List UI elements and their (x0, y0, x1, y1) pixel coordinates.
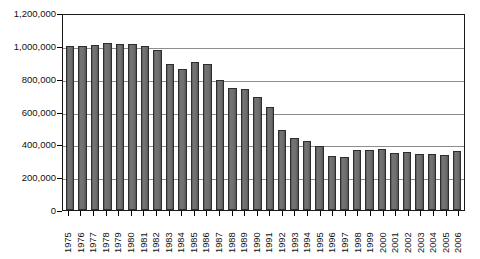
x-axis-tick-label: 1977 (89, 232, 98, 253)
x-axis-tick-label: 1980 (127, 232, 136, 253)
bar-slot (401, 15, 413, 210)
x-axis-tick-label: 1990 (253, 232, 262, 253)
x-axis-tick-label: 1976 (76, 232, 85, 253)
x-axis-tick (269, 211, 270, 216)
bar (228, 88, 236, 210)
x-axis-tick (93, 211, 94, 216)
x-axis-slot: 2000 (377, 211, 390, 259)
y-axis-tick-label: 400,000 (22, 141, 56, 151)
x-axis-tick-label: 1984 (177, 232, 186, 253)
x-axis-tick (232, 211, 233, 216)
x-axis-slot: 1993 (289, 211, 302, 259)
bar-slot (164, 15, 176, 210)
bar (428, 154, 436, 210)
bar-slot (239, 15, 251, 210)
bar (415, 154, 423, 210)
x-axis-tick-label: 1999 (366, 232, 375, 253)
x-axis-slot: 1978 (100, 211, 113, 259)
x-axis-tick (131, 211, 132, 216)
bar (153, 50, 161, 210)
x-axis-slot: 1997 (339, 211, 352, 259)
x-axis-tick (68, 211, 69, 216)
bar-slot (351, 15, 363, 210)
bar-slot (438, 15, 450, 210)
x-axis-tick-label: 1983 (164, 232, 173, 253)
x-axis-tick (345, 211, 346, 216)
x-axis-tick-label: 1996 (328, 232, 337, 253)
bar (390, 153, 398, 210)
bar (353, 150, 361, 210)
bar (178, 69, 186, 210)
x-axis-slot: 2006 (452, 211, 465, 259)
y-axis-tick-label: 1,000,000 (14, 42, 56, 52)
bar-slot (338, 15, 350, 210)
bar-slot (426, 15, 438, 210)
x-axis-slot: 1975 (62, 211, 75, 259)
bar (253, 97, 261, 210)
x-axis-tick-label: 1979 (114, 232, 123, 253)
bar (141, 46, 149, 210)
x-axis-slot: 1980 (125, 211, 138, 259)
x-axis-tick-label: 2001 (391, 232, 400, 253)
x-axis-slot: 2001 (389, 211, 402, 259)
bar-slot (139, 15, 151, 210)
bar (266, 107, 274, 210)
x-axis-slot: 1991 (264, 211, 277, 259)
x-axis-slot: 1995 (314, 211, 327, 259)
bar (303, 141, 311, 210)
bar-slot (89, 15, 101, 210)
x-axis-slot: 2002 (402, 211, 415, 259)
bar (403, 152, 411, 210)
bar (278, 130, 286, 210)
x-axis-tick (370, 211, 371, 216)
bar (290, 138, 298, 210)
bar-slot (114, 15, 126, 210)
bar-slot (226, 15, 238, 210)
bar-slot (189, 15, 201, 210)
bar-series (63, 15, 464, 210)
y-axis-tick-label: 800,000 (22, 75, 56, 85)
x-axis-slot: 1984 (175, 211, 188, 259)
x-axis-tick-label: 1985 (190, 232, 199, 253)
x-axis-slot: 1990 (251, 211, 264, 259)
x-axis-tick-label: 2004 (429, 232, 438, 253)
x-axis-tick-label: 1992 (278, 232, 287, 253)
bar (340, 157, 348, 210)
x-axis-slot: 1987 (213, 211, 226, 259)
x-axis-slot: 1989 (238, 211, 251, 259)
bar-slot (288, 15, 300, 210)
bar (78, 46, 86, 210)
x-axis-tick-label: 1975 (64, 232, 73, 253)
x-axis-slot: 1981 (138, 211, 151, 259)
bar-slot (176, 15, 188, 210)
bar (365, 150, 373, 210)
x-axis-tick (206, 211, 207, 216)
x-axis-tick (307, 211, 308, 216)
x-axis-labels: 1975197619771978197919801981198219831984… (62, 211, 465, 259)
x-axis-tick-label: 1995 (316, 232, 325, 253)
x-axis-tick (395, 211, 396, 216)
x-axis-tick-label: 2000 (378, 232, 387, 253)
bar-slot (388, 15, 400, 210)
x-axis-tick (80, 211, 81, 216)
bar-slot (214, 15, 226, 210)
x-axis-tick (106, 211, 107, 216)
x-axis-tick-label: 1989 (240, 232, 249, 253)
bar (128, 44, 136, 210)
bar (440, 155, 448, 210)
bar-slot (126, 15, 138, 210)
x-axis-tick (143, 211, 144, 216)
x-axis-tick-label: 2005 (441, 232, 450, 253)
x-axis-tick-label: 1987 (215, 232, 224, 253)
x-axis-tick (383, 211, 384, 216)
x-axis-slot: 1996 (326, 211, 339, 259)
x-axis-tick-label: 1997 (341, 232, 350, 253)
x-axis-tick (219, 211, 220, 216)
x-axis-tick-label: 1993 (290, 232, 299, 253)
bar-slot (201, 15, 213, 210)
x-axis-tick (169, 211, 170, 216)
x-axis-tick-label: 2002 (404, 232, 413, 253)
plot-area (62, 14, 465, 211)
bar (241, 89, 249, 210)
bar-slot (313, 15, 325, 210)
